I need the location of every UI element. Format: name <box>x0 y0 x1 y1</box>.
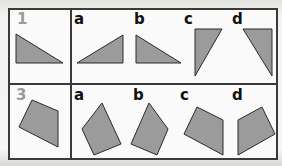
row-1-option-a-triangle[interactable] <box>77 35 123 63</box>
row-2-option-d-quadrilateral[interactable] <box>238 107 275 155</box>
row-1-option-d-triangle[interactable] <box>243 29 272 76</box>
worksheet: 1 a b c d 3 a b c d <box>0 0 282 166</box>
row-2-option-b-quadrilateral[interactable] <box>131 103 168 155</box>
row-1-reference-triangle <box>16 34 63 63</box>
row-1-option-b-triangle[interactable] <box>136 35 181 63</box>
row-2-reference-quadrilateral <box>19 100 58 147</box>
row-2-option-a-quadrilateral[interactable] <box>82 103 121 155</box>
row-1-option-c-triangle[interactable] <box>195 29 222 76</box>
shapes-layer <box>0 0 282 166</box>
row-2-option-c-quadrilateral[interactable] <box>184 107 223 155</box>
